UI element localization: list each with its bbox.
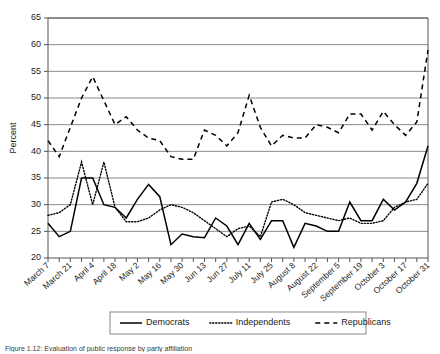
- series-line-independents: [48, 162, 428, 237]
- y-tick-label: 25: [31, 226, 41, 236]
- legend-label-republicans: Republicans: [341, 317, 391, 327]
- series-line-democrats: [48, 146, 428, 247]
- x-tick-label: April 18: [90, 260, 118, 287]
- legend-label-democrats: Democrats: [146, 317, 190, 327]
- x-tick-label: July 11: [226, 260, 252, 285]
- y-axis-label: Percent: [8, 122, 18, 154]
- y-tick-label: 60: [31, 39, 41, 49]
- x-tick-label: Jun 27: [204, 260, 230, 285]
- figure-caption: Figure 1.12: Evaluation of public respon…: [5, 345, 435, 352]
- y-tick-label: 35: [31, 172, 41, 182]
- series-line-republicans: [48, 50, 428, 159]
- y-tick-label: 20: [31, 252, 41, 262]
- x-tick-label: Jun 13: [182, 260, 208, 285]
- x-tick-label: May 30: [158, 260, 186, 286]
- x-tick-label: May 16: [136, 260, 164, 286]
- y-tick-label: 50: [31, 92, 41, 102]
- y-tick-label: 40: [31, 146, 41, 156]
- y-tick-label: 45: [31, 119, 41, 129]
- legend-label-independents: Independents: [236, 317, 291, 327]
- figure-container: 20253035404550556065PercentMarch 7March …: [0, 0, 440, 354]
- y-tick-label: 55: [31, 66, 41, 76]
- y-tick-label: 65: [31, 12, 41, 22]
- y-tick-label: 30: [31, 199, 41, 209]
- line-chart: 20253035404550556065PercentMarch 7March …: [0, 0, 440, 340]
